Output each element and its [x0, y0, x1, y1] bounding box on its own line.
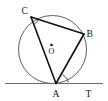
geometry-figure-root: C B A T O	[0, 0, 108, 101]
geometry-diagram: C B A T O	[0, 0, 108, 101]
label-b: B	[87, 29, 93, 39]
label-t: T	[86, 89, 92, 99]
label-o: O	[49, 47, 55, 56]
label-c: C	[22, 6, 28, 16]
label-a: A	[53, 89, 60, 99]
center-dot-o	[50, 44, 53, 47]
chord-ab	[56, 34, 84, 84]
